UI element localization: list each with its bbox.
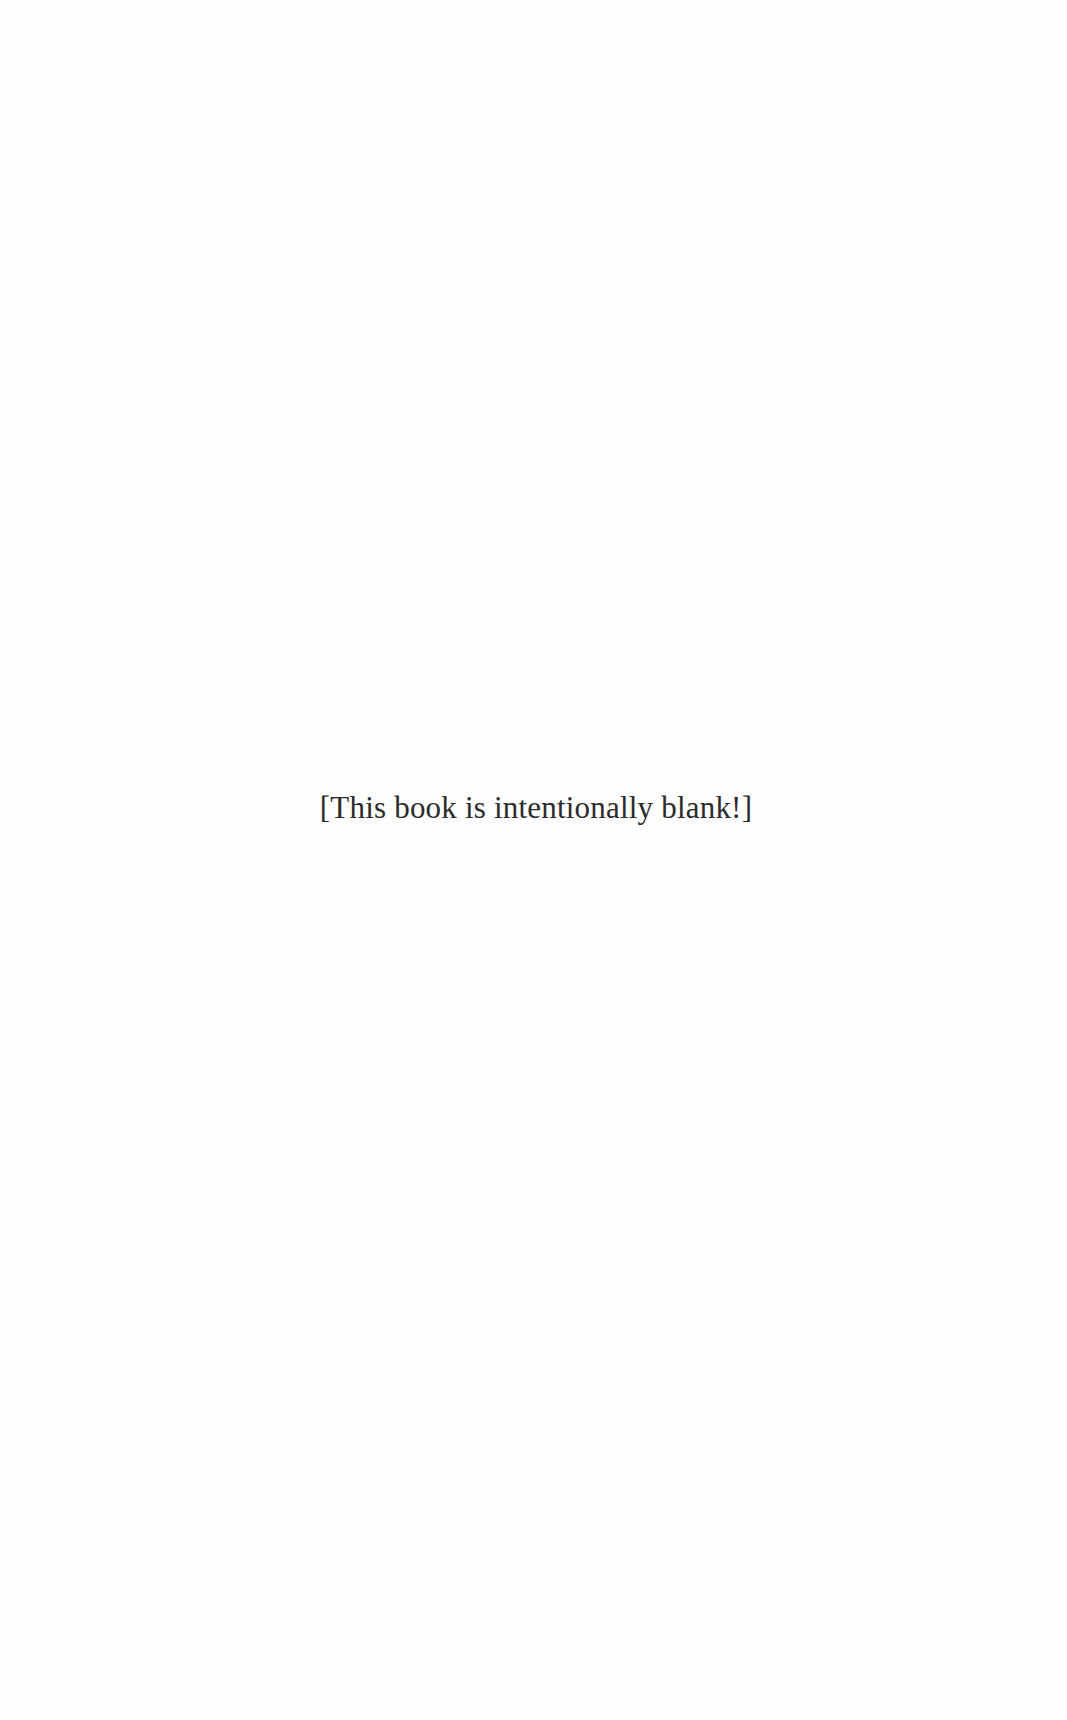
intentionally-blank-notice: [This book is intentionally blank!] [0,786,1067,830]
book-page: [This book is intentionally blank!] [0,0,1067,1720]
